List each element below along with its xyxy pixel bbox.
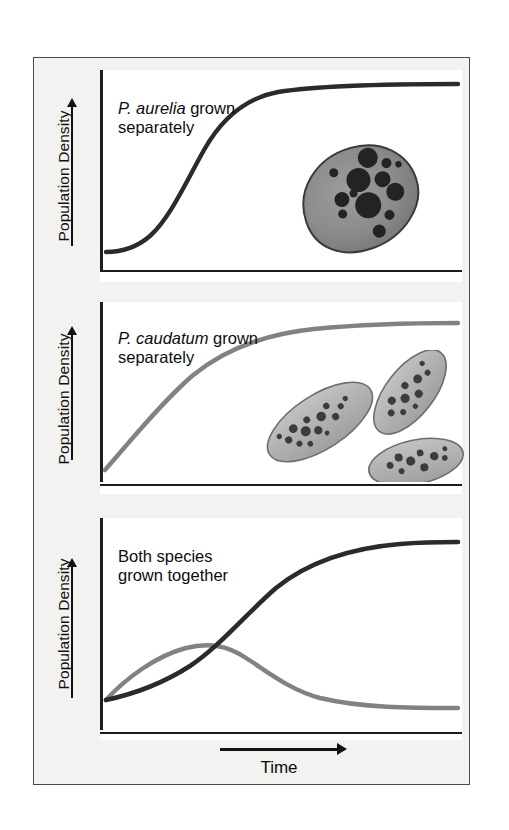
y-axis-label-group-0: Population Density	[38, 62, 72, 290]
y-axis-arrow-icon-2	[71, 566, 73, 698]
caption-rest-2: Both species grown together	[118, 547, 228, 584]
plot-area-1: P. caudatum grown separately	[100, 302, 462, 494]
plot-area-2: Both species grown together	[100, 518, 462, 740]
panel-caption-1: P. caudatum grown separately	[118, 310, 258, 367]
figure-plate: Population Density	[33, 57, 470, 785]
panel-caption-0: P. aurelia grown separately	[118, 80, 235, 137]
panel-p-caudatum-separate: Population Density	[34, 296, 471, 502]
panel-caption-2: Both species grown together	[118, 528, 228, 585]
caption-species-1: P. caudatum	[118, 329, 209, 347]
time-axis-group: Time	[34, 744, 471, 784]
y-axis-label-group-2: Population Density	[38, 508, 72, 740]
panel-p-aurelia-separate: Population Density	[34, 62, 471, 290]
caption-species-0: P. aurelia	[118, 99, 186, 117]
y-axis-arrow-icon-0	[71, 106, 73, 246]
panel-both-species-together: Population Density Both species grown to…	[34, 508, 471, 782]
figure-root: Population Density	[0, 0, 509, 830]
curve-p-caudatum-2	[106, 645, 458, 708]
x-axis-label: Time	[202, 758, 356, 778]
time-arrow-icon	[220, 748, 338, 751]
y-axis-arrow-icon-1	[71, 334, 73, 460]
plot-area-0: P. aurelia grown separately	[100, 70, 462, 282]
